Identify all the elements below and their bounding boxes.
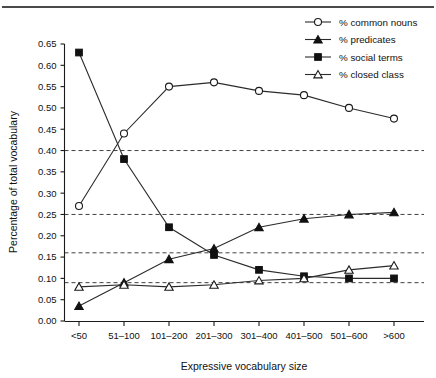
data-point (210, 245, 218, 252)
y-tick-label: 0.40 (38, 145, 57, 156)
data-point (256, 267, 263, 274)
data-point (256, 87, 263, 94)
y-tick-label: 0.45 (38, 124, 57, 135)
data-point (75, 302, 83, 309)
y-tick-label: 0.65 (38, 38, 57, 49)
x-axis-ticks: <5051–100101–200201–300301–400401–500501… (71, 321, 405, 341)
x-tick-label: 201–300 (196, 330, 233, 341)
data-point (76, 49, 83, 56)
data-point (166, 224, 173, 231)
data-point (211, 79, 218, 86)
data-point (391, 115, 398, 122)
legend-label: % social terms (339, 52, 403, 63)
data-point (301, 92, 308, 99)
y-axis-ticks: 0.000.050.100.150.200.250.300.350.400.45… (38, 38, 65, 326)
legend-marker (315, 54, 322, 61)
x-axis-title: Expressive vocabulary size (181, 360, 308, 372)
reference-lines (65, 151, 425, 283)
line-chart: 0.000.050.100.150.200.250.300.350.400.45… (0, 0, 436, 378)
y-tick-label: 0.50 (38, 102, 57, 113)
data-point (121, 130, 128, 137)
series-line (79, 82, 394, 206)
series-0 (76, 79, 398, 210)
data-point (76, 202, 83, 209)
y-tick-label: 0.00 (38, 315, 57, 326)
legend-label: % closed class (339, 69, 404, 80)
y-axis-title: Percentage of total vocabulary (7, 110, 19, 253)
x-tick-label: <50 (71, 330, 87, 341)
y-tick-label: 0.30 (38, 188, 57, 199)
data-point (346, 275, 353, 282)
legend-item-0: % common nouns (305, 17, 418, 28)
series-2 (76, 49, 398, 281)
legend-item-3: % closed class (305, 69, 404, 80)
series-1 (75, 208, 398, 309)
legend-label: % common nouns (339, 17, 418, 28)
x-tick-label: 301–400 (241, 330, 278, 341)
series-layer (75, 49, 398, 309)
series-line (79, 212, 394, 306)
x-tick-label: >600 (383, 330, 404, 341)
data-point (391, 275, 398, 282)
chart-legend: % common nouns% predicates% social terms… (305, 17, 418, 81)
y-tick-label: 0.60 (38, 60, 57, 71)
legend-item-2: % social terms (305, 52, 403, 63)
data-point (390, 262, 398, 269)
data-point (211, 252, 218, 259)
y-tick-label: 0.35 (38, 166, 57, 177)
y-tick-label: 0.15 (38, 251, 57, 262)
x-tick-label: 51–100 (108, 330, 140, 341)
y-tick-label: 0.05 (38, 294, 57, 305)
y-tick-label: 0.20 (38, 230, 57, 241)
x-tick-label: 501–600 (331, 330, 368, 341)
legend-marker (315, 19, 322, 26)
y-tick-label: 0.55 (38, 81, 57, 92)
data-point (121, 156, 128, 163)
data-point (346, 104, 353, 111)
legend-label: % predicates (339, 34, 396, 45)
legend-item-1: % predicates (305, 34, 396, 45)
data-point (166, 83, 173, 90)
y-tick-label: 0.25 (38, 209, 57, 220)
x-tick-label: 101–200 (151, 330, 188, 341)
x-tick-label: 401–500 (286, 330, 323, 341)
y-tick-label: 0.10 (38, 273, 57, 284)
